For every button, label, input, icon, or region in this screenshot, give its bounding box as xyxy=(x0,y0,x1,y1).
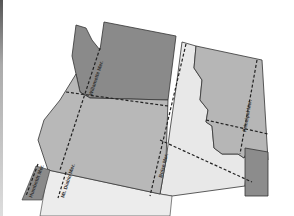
region-washington xyxy=(72,22,176,100)
region-wyoming xyxy=(245,148,268,196)
meridian-map: Willamette Mer. Boise Mer. Principal Mer… xyxy=(0,0,294,216)
